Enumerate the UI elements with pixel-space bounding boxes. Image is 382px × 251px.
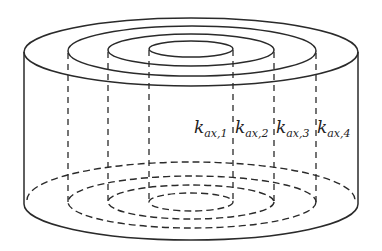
ring2-bottom-ellipse	[68, 176, 316, 228]
ring3-bottom-ellipse	[108, 185, 274, 219]
cylinder-diagram: kax,1 kax,2 kax,3 kax,4	[0, 0, 382, 251]
ring3-top-ellipse	[108, 34, 274, 66]
outer-bottom-front-arc	[24, 204, 358, 240]
label-kax3: kax,3	[276, 117, 310, 140]
inner-top-ellipse	[149, 41, 233, 57]
label-kax1: kax,1	[194, 117, 228, 140]
inner-bottom-ellipse	[149, 193, 233, 211]
label-kax2: kax,2	[235, 117, 269, 140]
outer-bottom-back-arc	[27, 162, 355, 200]
label-kax4: kax,4	[317, 117, 351, 140]
